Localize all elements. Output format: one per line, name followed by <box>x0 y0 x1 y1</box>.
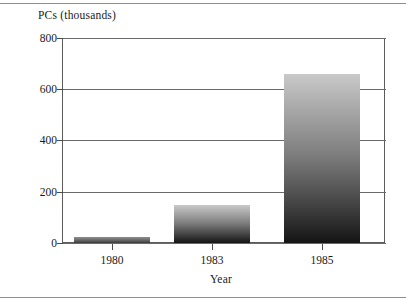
y-tick-mark-0 <box>57 243 63 244</box>
y-tick-label-0: 0 <box>5 237 57 249</box>
x-axis-title: Year <box>210 273 232 285</box>
bar-chart-figure: PCs (thousands) 800 600 400 200 0 1980 1… <box>0 0 406 307</box>
axis-baseline-0 <box>62 243 386 244</box>
x-tick-mark-1980 <box>112 244 113 250</box>
x-axis-title-wrap: Year <box>0 273 406 285</box>
x-tick-mark-1983 <box>212 244 213 250</box>
y-axis-title: PCs (thousands) <box>38 9 116 21</box>
x-tick-label-1983: 1983 <box>201 254 224 266</box>
bar-1983[interactable] <box>174 205 250 243</box>
y-tick-label-400: 400 <box>5 134 57 146</box>
y-tick-label-200: 200 <box>5 186 57 198</box>
x-tick-mark-1985 <box>322 244 323 250</box>
bar-1985[interactable] <box>284 74 360 243</box>
bar-1980[interactable] <box>74 237 150 243</box>
x-tick-label-1985: 1985 <box>311 254 334 266</box>
y-tick-label-800: 800 <box>5 32 57 44</box>
bars-layer <box>62 38 385 243</box>
x-tick-label-1980: 1980 <box>101 254 124 266</box>
y-tick-label-600: 600 <box>5 83 57 95</box>
